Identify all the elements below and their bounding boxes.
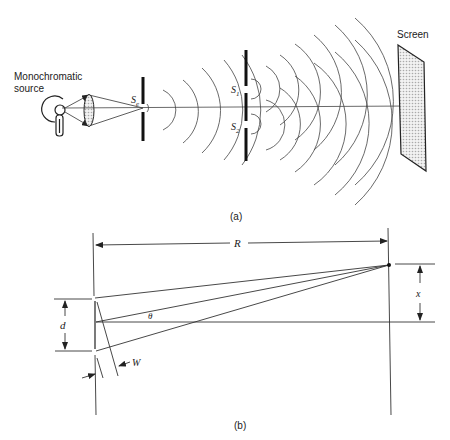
double-slit-figure: Monochromatic source Se: [0, 0, 450, 440]
ray-center: [96, 265, 389, 322]
screen-label: Screen: [397, 29, 429, 40]
screen-icon: [398, 45, 426, 171]
wavefronts-s2: [251, 40, 392, 205]
caption-b: (b): [234, 420, 246, 431]
x-label: x: [415, 288, 421, 299]
ray-slit1: [95, 265, 389, 298]
ray-slit2: [96, 265, 389, 351]
d-label: d: [60, 319, 66, 331]
slit2-label: S2: [231, 121, 240, 135]
w-short-line: [97, 358, 103, 378]
entrance-slit-label: Se: [131, 94, 139, 108]
slit-barrier-b: [93, 233, 96, 415]
wavefronts-s1: [251, 18, 393, 185]
w-arrow-left: [82, 374, 95, 378]
w-slant-line: [97, 302, 118, 376]
source-label-line2: source: [14, 83, 44, 94]
theta-label: θ: [148, 311, 153, 321]
optical-axis: [62, 106, 410, 108]
source-label-line1: Monochromatic: [14, 71, 82, 82]
lens-icon: [84, 95, 94, 127]
screen-point: [387, 263, 391, 267]
screen-line-b: [388, 228, 391, 415]
r-arrow-left: [96, 243, 230, 245]
w-arrow-right: [119, 362, 130, 366]
lamp-icon: [42, 96, 65, 136]
r-label: R: [233, 237, 241, 249]
slit1-label: S1: [231, 84, 240, 98]
w-label: W: [132, 357, 142, 368]
caption-a: (a): [230, 211, 242, 222]
wavefronts-entrance: [147, 55, 261, 165]
figure-b: [54, 228, 435, 415]
r-arrow-right: [248, 241, 387, 243]
figure-a: Monochromatic source Se: [14, 18, 429, 222]
